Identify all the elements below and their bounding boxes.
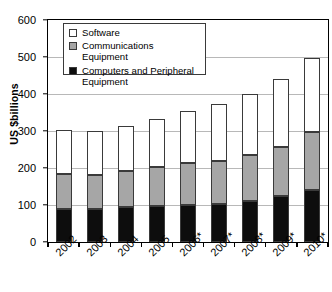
bar-segment (87, 131, 103, 175)
y-tick-label: 400 (0, 88, 36, 100)
bar-segment (180, 111, 196, 163)
gray-square-icon (69, 42, 77, 50)
bar-segment (118, 126, 134, 171)
y-tick-label: 600 (0, 14, 36, 26)
bar-segment (273, 147, 289, 196)
stacked-bar-chart: US $billions 0100200300400500600 2002200… (0, 0, 332, 292)
bar-segment (242, 94, 258, 154)
bar-group (273, 20, 289, 242)
x-tick-mark (110, 242, 111, 247)
bar-group (211, 20, 227, 242)
legend-item-computers: Computers and Peripheral Equipment (69, 65, 201, 87)
legend-label-computers: Computers and Peripheral Equipment (82, 65, 201, 87)
bar-segment (211, 104, 227, 161)
bar-segment (273, 79, 289, 147)
x-tick-mark (78, 242, 79, 247)
bar-group (304, 20, 320, 242)
bar-segment (56, 174, 72, 209)
legend-label-software: Software (82, 27, 120, 38)
bar-segment (87, 175, 103, 209)
x-tick-mark (47, 242, 48, 247)
legend-item-communications: Communications Equipment (69, 40, 201, 62)
bar-segment (118, 171, 134, 207)
y-tick-label: 0 (0, 236, 36, 248)
x-tick-mark (172, 242, 173, 247)
x-tick-mark (265, 242, 266, 247)
bar-segment (304, 132, 320, 190)
legend-label-communications: Communications Equipment (82, 40, 201, 62)
bar-segment (242, 155, 258, 201)
bar-group (242, 20, 258, 242)
bar-segment (149, 167, 165, 206)
legend: Software Communications Equipment Comput… (63, 23, 206, 75)
bar-segment (56, 130, 72, 174)
y-axis-title: US $billions (8, 74, 20, 154)
y-tick-label: 100 (0, 199, 36, 211)
white-square-icon (69, 29, 77, 37)
x-tick-mark (203, 242, 204, 247)
bar-segment (180, 163, 196, 205)
y-tick-label: 300 (0, 125, 36, 137)
legend-item-software: Software (69, 27, 201, 38)
black-square-icon (69, 67, 77, 75)
bar-segment (211, 161, 227, 204)
y-tick-label: 500 (0, 51, 36, 63)
bar-segment (149, 119, 165, 167)
y-tick-label: 200 (0, 162, 36, 174)
x-tick-mark (327, 242, 328, 247)
x-tick-mark (234, 242, 235, 247)
x-tick-mark (141, 242, 142, 247)
x-tick-mark (296, 242, 297, 247)
bar-segment (304, 58, 320, 132)
